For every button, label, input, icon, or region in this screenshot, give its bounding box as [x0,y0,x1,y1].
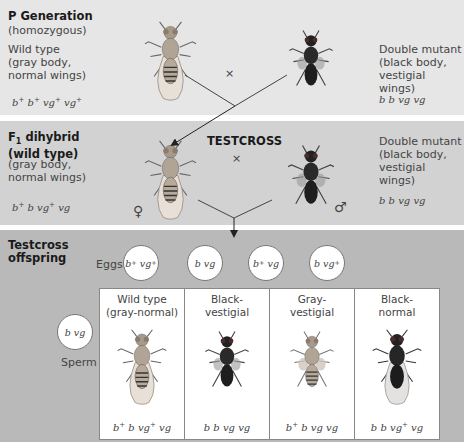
p-cross-line [185,75,287,106]
cross-lines [0,0,464,448]
p-to-f1-arrow [172,106,235,145]
f1-cross-line [198,200,272,218]
